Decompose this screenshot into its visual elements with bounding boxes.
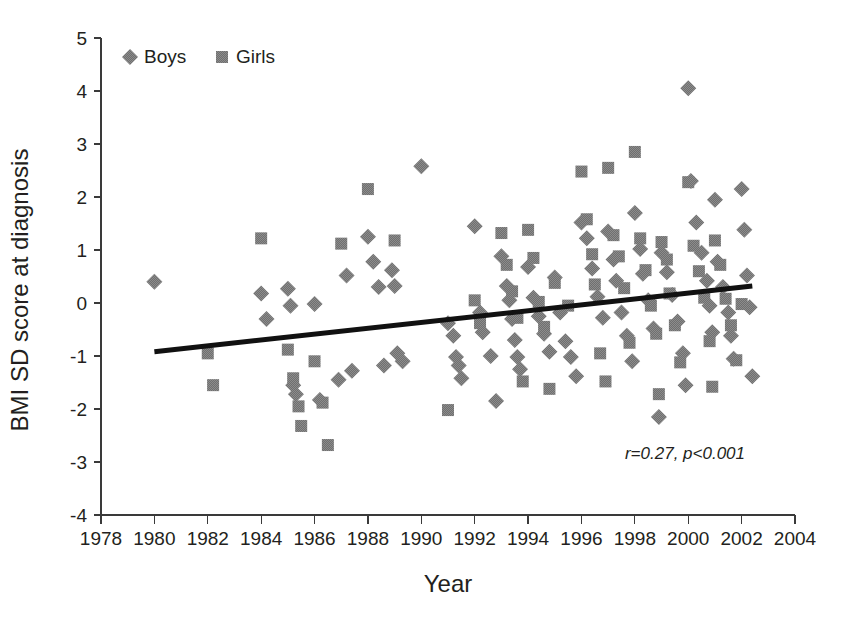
data-point-boys (360, 229, 376, 245)
data-point-boys (509, 349, 525, 365)
data-point-girls (575, 166, 587, 178)
data-point-girls (624, 337, 636, 349)
x-axis-tick-label: 1998 (614, 528, 656, 549)
data-point-boys (483, 348, 499, 364)
data-point-girls (607, 229, 619, 241)
data-point-boys (568, 368, 584, 384)
data-point-girls (581, 213, 593, 225)
data-point-girls (293, 400, 305, 412)
data-point-boys (467, 218, 483, 234)
data-point-boys (283, 298, 299, 314)
data-point-boys (720, 305, 736, 321)
data-point-boys (371, 279, 387, 295)
data-point-girls (549, 277, 561, 289)
y-axis-tick-label: -2 (70, 399, 87, 420)
data-point-boys (453, 370, 469, 386)
legend: BoysGirls (122, 46, 275, 67)
data-point-girls (506, 285, 518, 297)
data-point-girls (442, 404, 454, 416)
data-point-boys (146, 274, 162, 290)
data-point-boys (707, 192, 723, 208)
data-point-girls (586, 248, 598, 260)
data-point-girls (602, 162, 614, 174)
data-point-girls (693, 265, 705, 277)
data-point-girls (709, 234, 721, 246)
data-point-girls (362, 183, 374, 195)
data-point-boys (280, 281, 296, 297)
data-point-boys (512, 361, 528, 377)
data-point-girls (720, 293, 732, 305)
data-point-girls (613, 250, 625, 262)
legend-label-boys: Boys (144, 46, 186, 67)
x-axis-tick-label: 2000 (667, 528, 709, 549)
x-axis-tick-label: 2004 (774, 528, 817, 549)
y-axis-tick-label: 0 (76, 293, 87, 314)
series-girls (202, 146, 748, 451)
data-point-girls (255, 232, 267, 244)
data-point-girls (495, 227, 507, 239)
x-axis-tick-label: 2002 (720, 528, 762, 549)
y-axis-tick-label: 4 (76, 81, 87, 102)
data-point-boys (258, 311, 274, 327)
data-point-girls (656, 236, 668, 248)
data-point-boys (627, 205, 643, 221)
data-point-girls (282, 344, 294, 356)
data-point-boys (744, 368, 760, 384)
data-point-boys (739, 267, 755, 283)
data-point-boys (659, 264, 675, 280)
data-point-boys (344, 363, 360, 379)
x-axis-tick-label: 1984 (240, 528, 283, 549)
y-axis-tick-label: 2 (76, 187, 87, 208)
data-point-boys (584, 261, 600, 277)
data-point-girls (736, 298, 748, 310)
data-point-girls (309, 355, 321, 367)
legend-marker-boys (122, 49, 138, 65)
series-boys (146, 80, 760, 425)
x-axis-tick-label: 1978 (80, 528, 122, 549)
data-point-girls (522, 224, 534, 236)
x-axis-tick-label: 1980 (133, 528, 175, 549)
data-point-boys (736, 222, 752, 238)
data-point-girls (207, 379, 219, 391)
y-axis-title: BMI SD score at diagnosis (6, 149, 33, 432)
data-point-boys (579, 230, 595, 246)
data-point-girls (730, 354, 742, 366)
data-point-boys (365, 254, 381, 270)
data-point-girls (688, 240, 700, 252)
data-points-layer (146, 80, 760, 451)
data-point-girls (682, 176, 694, 188)
data-point-girls (543, 383, 555, 395)
x-axis-tick-label: 1992 (454, 528, 496, 549)
data-point-boys (678, 377, 694, 393)
data-point-girls (517, 375, 529, 387)
x-axis-tick-label: 1982 (187, 528, 229, 549)
data-point-boys (557, 333, 573, 349)
data-point-boys (651, 409, 667, 425)
data-point-boys (488, 393, 504, 409)
data-point-girls (322, 439, 334, 451)
data-point-girls (202, 347, 214, 359)
data-point-boys (376, 358, 392, 374)
x-axis-tick-label: 1996 (560, 528, 602, 549)
data-point-girls (704, 335, 716, 347)
data-point-boys (614, 305, 630, 321)
data-point-girls (335, 238, 347, 250)
data-point-girls (650, 328, 662, 340)
legend-label-girls: Girls (236, 46, 275, 67)
data-point-girls (599, 375, 611, 387)
data-point-girls (669, 319, 681, 331)
data-point-boys (734, 181, 750, 197)
data-point-boys (507, 332, 523, 348)
data-point-girls (389, 234, 401, 246)
x-axis-tick-label: 1988 (347, 528, 389, 549)
data-point-girls (469, 294, 481, 306)
data-point-boys (541, 344, 557, 360)
data-point-girls (527, 252, 539, 264)
data-point-boys (413, 158, 429, 174)
correlation-annotation: r=0.27, p<0.001 (625, 444, 745, 463)
data-point-girls (589, 278, 601, 290)
legend-marker-girls (216, 51, 228, 63)
y-axis-tick-label: -1 (70, 346, 87, 367)
scatter-plot-figure: -4-3-2-101234519781980198219841986198819… (0, 0, 841, 619)
y-axis-tick-label: 1 (76, 240, 87, 261)
